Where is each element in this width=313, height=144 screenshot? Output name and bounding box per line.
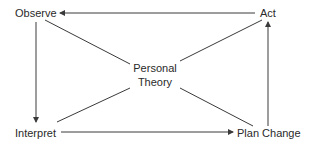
center-label-line1: Personal (120, 61, 190, 75)
line-center-to-observe (45, 20, 130, 64)
node-act: Act (260, 7, 276, 19)
line-center-to-act (180, 20, 262, 61)
node-personal-theory: Personal Theory (120, 61, 190, 89)
line-center-to-interpret (57, 88, 130, 122)
cycle-diagram: Observe Act Interpret Plan Change Person… (0, 0, 313, 144)
node-plan-change: Plan Change (237, 127, 301, 139)
center-label-line2: Theory (120, 75, 190, 89)
node-interpret: Interpret (15, 127, 56, 139)
node-observe: Observe (15, 7, 57, 19)
line-center-to-plan-change (180, 88, 253, 126)
